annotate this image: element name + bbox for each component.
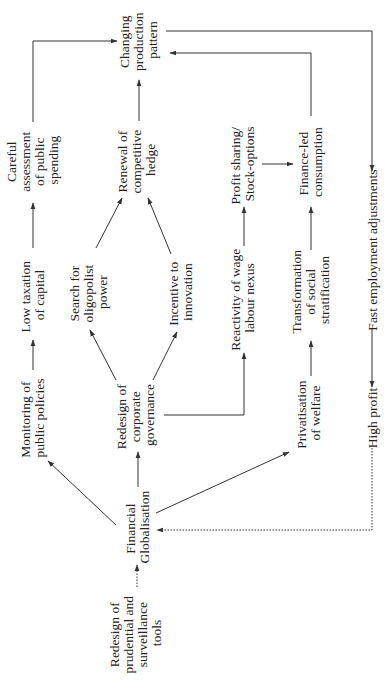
node-line: Redesign of <box>107 602 122 667</box>
node-monitoring-public-policies: Monitoring of public policies <box>18 378 47 458</box>
node-redesign-prudential-tools: Redesign of prudential and surveillance … <box>107 593 164 674</box>
svg-text:Transformation of soci: Transformation of social stratification <box>289 247 332 334</box>
node-line: Reactivity of wage <box>228 249 243 351</box>
edge-corpgov-to-incentive <box>153 332 177 380</box>
svg-text:Renewal of competitive: Renewal of competitive hedge <box>115 126 158 193</box>
edge-search-to-renewal <box>96 198 122 248</box>
node-line: of social <box>303 268 318 314</box>
node-line: Renewal of <box>115 130 130 192</box>
nodes: Careful assessment of public spending Ch… <box>4 9 380 673</box>
node-line: Privatisation <box>294 380 309 448</box>
svg-text:Profit sharing/ Stock-: Profit sharing/ Stock-options <box>228 124 257 205</box>
node-line: oligopolist <box>81 265 96 323</box>
svg-text:Reactivity of wage lab: Reactivity of wage labour nexus <box>228 245 257 350</box>
svg-text:Redesign of corporate: Redesign of corporate governance <box>114 381 157 449</box>
node-line: Stock-options <box>242 126 257 201</box>
regime-diagram: Careful assessment of public spending Ch… <box>0 0 389 693</box>
node-line: consumption <box>310 127 325 197</box>
svg-text:Redesign of prudential: Redesign of prudential and surveillance … <box>107 593 164 674</box>
svg-text:Monitoring of public p: Monitoring of public policies <box>18 378 47 458</box>
node-line: Incentive to <box>166 261 181 325</box>
node-incentive-innovation: Incentive to innovation <box>166 258 195 325</box>
edge-corpgov-to-reactivity <box>164 353 244 415</box>
edge-corpgov-to-search <box>90 330 116 380</box>
edge-finglob-to-monitoring <box>48 461 116 525</box>
svg-text:Search for oligopolist: Search for oligopolist power <box>67 261 110 322</box>
node-line: labour nexus <box>242 263 257 332</box>
svg-text:Low taxation of capita: Low taxation of capital <box>18 258 47 333</box>
node-line: Profit sharing/ <box>228 127 243 205</box>
edge-highprofit-to-finglob <box>157 448 372 530</box>
node-careful-assessment: Careful assessment of public spending <box>4 128 61 191</box>
node-line: surveillance <box>135 602 150 667</box>
svg-text:Privatisation of welfa: Privatisation of welfare <box>294 377 323 449</box>
node-line: innovation <box>180 263 195 321</box>
edge-changing-to-fastemployment <box>166 31 372 171</box>
node-line: Low taxation <box>18 261 33 333</box>
node-privatisation-welfare: Privatisation of welfare <box>294 377 323 449</box>
node-line: Search for <box>67 265 82 321</box>
node-line: Careful <box>4 141 19 182</box>
node-line: of welfare <box>308 385 323 440</box>
node-line: assessment <box>18 131 33 191</box>
svg-text:Incentive to innovatio: Incentive to innovation <box>166 258 195 325</box>
node-redesign-corporate-governance: Redesign of corporate governance <box>114 381 157 449</box>
node-changing-production-pattern: Changing production pattern <box>117 9 160 71</box>
node-line: Financial <box>123 503 138 553</box>
edge-incentive-to-renewal <box>148 198 171 254</box>
node-line: spending <box>46 135 61 184</box>
node-high-profit: High profit <box>365 388 380 449</box>
node-line: Transformation <box>289 250 304 334</box>
edge-financeled-to-changing <box>170 53 311 116</box>
node-line: tools <box>149 620 164 646</box>
node-line: stratification <box>317 256 332 324</box>
svg-text:Fast employment adjustments: Fast employment adjustments <box>365 169 380 330</box>
edge-careful-to-changing <box>33 41 117 122</box>
svg-text:Finance-led consumptio: Finance-led consumption <box>296 127 325 197</box>
node-line: of capital <box>32 269 47 320</box>
node-line: corporate <box>128 391 143 442</box>
node-line: of public <box>32 138 47 186</box>
node-line: production <box>131 12 146 71</box>
node-line: pattern <box>145 21 160 59</box>
node-search-oligopolist-power: Search for oligopolist power <box>67 261 110 322</box>
node-line: hedge <box>143 144 158 176</box>
svg-text:Financial Globalisatio: Financial Globalisation <box>123 490 152 563</box>
node-low-taxation: Low taxation of capital <box>18 258 47 333</box>
node-profit-sharing: Profit sharing/ Stock-options <box>228 124 257 205</box>
node-line: Globalisation <box>137 490 152 563</box>
node-line: Finance-led <box>296 132 311 196</box>
edge-finglob-to-privatisation <box>156 452 289 513</box>
node-line: governance <box>142 384 157 446</box>
node-renewal-competitive-hedge: Renewal of competitive hedge <box>115 126 158 193</box>
node-transformation-social-stratification: Transformation of social stratification <box>289 247 332 334</box>
node-line: competitive <box>129 130 144 194</box>
node-finance-led-consumption: Finance-led consumption <box>296 127 325 197</box>
node-reactivity-wage-labour: Reactivity of wage labour nexus <box>228 245 257 350</box>
svg-text:Careful assessment: Careful assessment of public spending <box>4 128 61 191</box>
node-financial-globalisation: Financial Globalisation <box>123 490 152 563</box>
node-line: Fast employment adjustments <box>365 169 380 330</box>
node-fast-employment-adjustments: Fast employment adjustments <box>365 169 380 330</box>
svg-text:Changing production: Changing production pattern <box>117 9 160 71</box>
node-line: power <box>95 275 110 309</box>
svg-text:High profit: High profit <box>365 388 380 449</box>
node-line: prudential and <box>121 596 136 674</box>
node-line: Redesign of <box>114 384 129 449</box>
node-line: Changing <box>117 15 132 68</box>
node-line: High profit <box>365 388 380 449</box>
node-line: public policies <box>32 378 47 457</box>
node-line: Monitoring of <box>18 381 33 458</box>
